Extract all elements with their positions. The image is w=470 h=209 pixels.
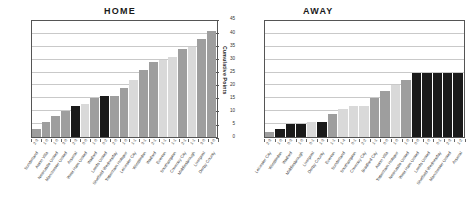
y-axis-tick-mark — [216, 98, 219, 99]
x-axis-score-label: 0-0 — [82, 138, 89, 145]
x-axis-label-group: 1-1Everton — [159, 139, 169, 209]
bar — [197, 39, 207, 137]
y-axis-tick-mark — [216, 33, 219, 34]
x-axis-label-group: 0-1Liverpool — [306, 139, 317, 209]
x-axis-score-label: 4-0 — [210, 138, 217, 145]
bar — [120, 88, 130, 137]
x-axis-label-group: 1-3Derby County — [317, 139, 328, 209]
x-axis-label-group: 1-1Everton — [327, 139, 338, 209]
x-axis-label-group: 2-1Watford — [149, 139, 159, 209]
x-axis-label-group: 1-2Arsenal — [454, 139, 465, 209]
bar — [349, 106, 359, 137]
x-axis-label-group: 0-1Southampton — [349, 139, 360, 209]
y-axis-tick-mark — [216, 59, 219, 60]
x-axis-score-label: 2-1 — [151, 138, 158, 145]
chart-title-away: AWAY — [245, 6, 470, 16]
x-axis-score-label: 1-1 — [372, 138, 379, 145]
y-axis-tick: 10 — [219, 109, 235, 114]
x-axis-score-label: 0-1 — [308, 138, 315, 145]
y-axis-tick-mark — [216, 20, 219, 21]
x-axis-score-label: 0-0 — [414, 138, 421, 145]
plot-area-away — [264, 20, 465, 138]
y-axis-tick: 45 — [219, 17, 235, 22]
bar — [443, 73, 453, 137]
bar — [265, 132, 275, 137]
y-axis-tick-mark — [216, 72, 219, 73]
chart-title-home: HOME — [0, 6, 240, 16]
x-axis-label-group: 0-0West Ham United — [80, 139, 90, 209]
x-axis-label-group: 1-4Sunderland — [338, 139, 349, 209]
x-axis-label-group: 1-1Middlesbrough — [189, 139, 199, 209]
x-axis-score-label: 0-2 — [102, 138, 109, 145]
bar — [188, 47, 198, 137]
x-axis-score-label: 3-1 — [141, 138, 148, 145]
x-axis-score-label: 1-1 — [190, 138, 197, 145]
bar-series-away — [265, 21, 464, 137]
x-axis-score-label: 1-3 — [319, 138, 326, 145]
y-axis-tick-mark — [216, 85, 219, 86]
x-axis-score-label: 2-3 — [33, 138, 40, 145]
y-axis-tick: 5 — [219, 122, 235, 127]
bar-series-home — [32, 21, 217, 137]
x-axis-label-group: 1-0Wimbledon — [275, 139, 286, 209]
x-axis-score-label: 1-1 — [161, 138, 168, 145]
x-axis-score-label: 1-2 — [456, 138, 463, 145]
bar — [391, 85, 401, 137]
x-axis-score-label: 1-0 — [52, 138, 59, 145]
x-axis-label-group: 1-0Tottenham Hotspur — [120, 139, 130, 209]
bar — [296, 124, 306, 137]
x-axis-score-label: 1-0 — [425, 138, 432, 145]
x-axis-score-label: 1-1 — [131, 138, 138, 145]
x-axis-score-label: 0-3 — [287, 138, 294, 145]
x-axis-label-group: 2-2Coventry City — [359, 139, 370, 209]
bar — [168, 57, 178, 137]
plot-area-home — [31, 20, 218, 138]
bar — [178, 49, 188, 137]
x-axis-score-label: 0-1 — [351, 138, 358, 145]
y-axis-tick-mark — [216, 46, 219, 47]
x-axis-score-label: 3-0 — [62, 138, 69, 145]
bar — [149, 62, 159, 137]
x-axis-score-label: 2-0 — [111, 138, 118, 145]
x-axis-score-label: 2-3 — [446, 138, 453, 145]
chart-panel-away: AWAY 2-3Leicester City1-0Wimbledon0-3Wat… — [245, 0, 465, 209]
y-axis-title: Cumulative Points — [222, 46, 228, 95]
x-axis-score-label: 1-0 — [42, 138, 49, 145]
x-axis-score-label: 1-1 — [170, 138, 177, 145]
x-axis-label-group: 3-0Liverpool — [198, 139, 208, 209]
x-axis-score-label: 1-0 — [121, 138, 128, 145]
x-axis-score-label: 2-2 — [361, 138, 368, 145]
y-axis-tick-mark — [216, 111, 219, 112]
x-axis-score-label: 2-1 — [180, 138, 187, 145]
bar — [207, 31, 217, 137]
bar — [159, 60, 169, 137]
x-axis-score-label: 1-0 — [298, 138, 305, 145]
bar — [401, 80, 411, 137]
x-axis-score-label: 1-0 — [277, 138, 284, 145]
x-axis-label-group: 2-3Manchester United — [444, 139, 455, 209]
x-axis-score-label: 2-3 — [72, 138, 79, 145]
x-axis-label-group: 2-3Leicester City — [264, 139, 275, 209]
y-axis-tick: 40 — [219, 31, 235, 36]
x-axis-label-group: 1-0Middlesbrough — [296, 139, 307, 209]
x-axis-score-label: 3-0 — [200, 138, 207, 145]
x-axis-labels-away: 2-3Leicester City1-0Wimbledon0-3Watford1… — [264, 139, 465, 209]
x-axis-score-label: 2-3 — [266, 138, 273, 145]
chart-panel-home: HOME 051015202530354045 Cumulative Point… — [0, 0, 240, 209]
y-axis-tick-mark — [216, 125, 219, 126]
x-axis-label-group: 1-1Leicester City — [129, 139, 139, 209]
bar — [32, 129, 42, 137]
x-axis-score-label: 1-1 — [329, 138, 336, 145]
x-axis-score-label: 0-1 — [435, 138, 442, 145]
x-axis-score-label: 1-4 — [340, 138, 347, 145]
y-axis-tick: 15 — [219, 96, 235, 101]
x-axis-label-group: 3-1Wimbledon — [139, 139, 149, 209]
x-axis-label-group: 4-0Derby County — [208, 139, 218, 209]
x-axis-score-label: 1-0 — [404, 138, 411, 145]
x-axis-score-label: 0-0 — [382, 138, 389, 145]
x-axis-score-label: 1-0 — [92, 138, 99, 145]
x-axis-score-label: 1-0 — [393, 138, 400, 145]
x-axis-labels-home: 2-3Sunderland1-0Aston Villa1-0Newcastle … — [31, 139, 218, 209]
